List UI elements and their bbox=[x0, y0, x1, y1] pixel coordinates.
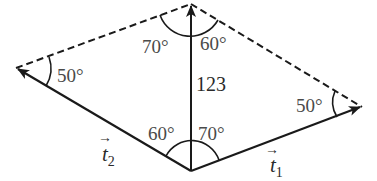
angle-label-right: 50° bbox=[296, 95, 323, 116]
angle-label-bottom-right: 70° bbox=[198, 123, 225, 144]
angle-label-bottom-left: 60° bbox=[148, 123, 175, 144]
vector-t2-label: t2 bbox=[102, 142, 115, 169]
angle-label-top-right: 60° bbox=[200, 33, 227, 54]
angle-label-top-left: 70° bbox=[142, 36, 169, 57]
angle-arc-left bbox=[46, 57, 51, 86]
force-diagram: 70° 60° 50° 50° 60° 70° 123 → t2 → t1 bbox=[0, 0, 377, 181]
angle-arc-right bbox=[333, 91, 337, 117]
angle-label-left: 50° bbox=[57, 65, 84, 86]
vector-t1-label: t1 bbox=[270, 153, 283, 180]
resultant-magnitude-label: 123 bbox=[196, 73, 226, 95]
